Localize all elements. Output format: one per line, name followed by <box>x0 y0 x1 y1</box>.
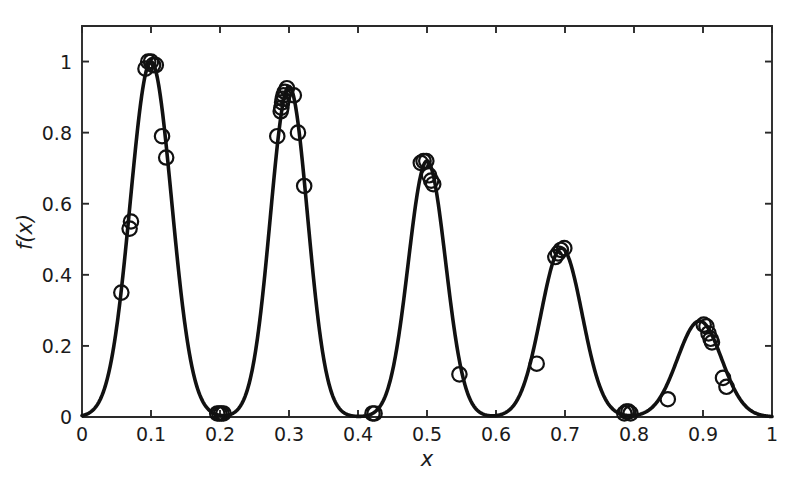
x-tick-label-4: 0.4 <box>343 423 373 445</box>
x-tick-label-1: 0.1 <box>136 423 166 445</box>
y-tick-label-1: 0.2 <box>42 335 72 357</box>
x-tick-label-8: 0.8 <box>619 423 649 445</box>
figure-page: 00.10.20.30.40.50.60.70.80.91 00.20.40.6… <box>0 0 802 489</box>
x-tick-label-0: 0 <box>76 423 88 445</box>
x-tick-label-2: 0.2 <box>205 423 235 445</box>
x-axis-label: x <box>420 447 434 471</box>
y-tick-label-0: 0 <box>60 406 72 428</box>
y-tick-label-4: 0.8 <box>42 122 72 144</box>
x-tick-label-9: 0.9 <box>688 423 718 445</box>
y-tick-label-2: 0.4 <box>42 264 72 286</box>
x-tick-label-3: 0.3 <box>274 423 304 445</box>
y-tick-label-5: 1 <box>60 51 72 73</box>
x-tick-label-7: 0.7 <box>550 423 580 445</box>
y-axis-label: f(x) <box>13 214 37 250</box>
y-tick-label-3: 0.6 <box>42 193 72 215</box>
x-tick-label-10: 1 <box>766 423 778 445</box>
x-tick-label-6: 0.6 <box>481 423 511 445</box>
x-tick-label-5: 0.5 <box>412 423 442 445</box>
figure-background <box>0 0 802 489</box>
plot-figure: 00.10.20.30.40.50.60.70.80.91 00.20.40.6… <box>0 0 802 489</box>
